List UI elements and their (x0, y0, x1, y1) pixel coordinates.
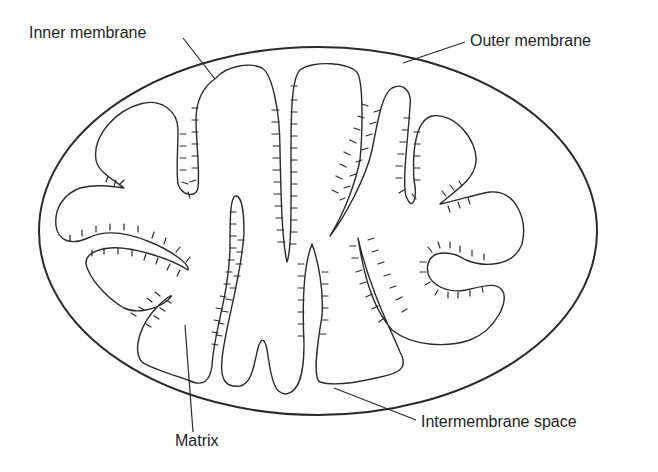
outer-membrane-leader (403, 42, 465, 63)
matrix-leader (185, 325, 193, 432)
matrix-label: Matrix (175, 433, 219, 449)
outer-membrane-shape (39, 47, 597, 415)
outer-membrane-label: Outer membrane (470, 33, 591, 49)
intermembrane-space-label: Intermembrane space (421, 414, 577, 430)
inner-membrane-label: Inner membrane (29, 25, 146, 41)
inner-membrane-shape (56, 64, 524, 394)
intermembrane-space-leader (334, 388, 416, 420)
mitochondrion-diagram (0, 0, 658, 472)
inner-membrane-leader (183, 38, 215, 79)
